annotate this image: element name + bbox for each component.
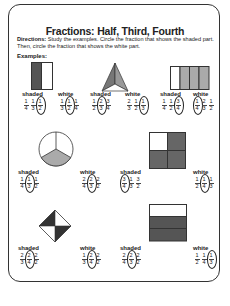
numerator: 2 bbox=[96, 177, 99, 183]
numerator: 1 bbox=[34, 177, 37, 183]
numerator: 1 bbox=[82, 253, 85, 259]
white-fraction-choices: 142312 bbox=[194, 99, 214, 112]
denominator: 4 bbox=[27, 260, 30, 266]
denominator: 3 bbox=[31, 106, 34, 112]
fraction-choice[interactable]: 13 bbox=[26, 177, 32, 190]
numerator: 1 bbox=[20, 177, 23, 183]
numerator: 2 bbox=[202, 99, 205, 105]
white-fraction-choices: 121413 bbox=[194, 253, 214, 266]
fraction-choice[interactable]: 24 bbox=[88, 253, 94, 266]
numerator: 1 bbox=[202, 177, 205, 183]
fraction-choice[interactable]: 32 bbox=[135, 177, 141, 190]
denominator: 3 bbox=[27, 184, 30, 190]
examples-label: Examples: bbox=[17, 53, 47, 59]
fraction-choice[interactable]: 23 bbox=[88, 177, 94, 190]
fraction-choice[interactable]: 13 bbox=[140, 99, 146, 112]
denominator: 3 bbox=[89, 184, 92, 190]
fraction-choice[interactable]: 13 bbox=[208, 253, 214, 266]
fraction-bar bbox=[202, 183, 207, 184]
fraction-choice[interactable]: 12 bbox=[33, 177, 39, 190]
denominator: 3 bbox=[60, 106, 63, 112]
denominator: 3 bbox=[82, 260, 85, 266]
fraction-bar bbox=[89, 183, 94, 184]
fraction-choice[interactable]: 24 bbox=[26, 253, 32, 266]
fraction-choice[interactable]: 14 bbox=[201, 177, 207, 190]
fraction-choice[interactable]: 23 bbox=[201, 99, 207, 112]
numerator: 1 bbox=[209, 253, 212, 259]
fraction-choice[interactable]: 34 bbox=[105, 99, 111, 112]
denominator: 4 bbox=[162, 106, 165, 112]
numerator: 2 bbox=[122, 253, 125, 259]
denominator: 3 bbox=[209, 184, 212, 190]
denominator: 4 bbox=[20, 184, 23, 190]
fraction-choice[interactable]: 12 bbox=[66, 99, 72, 112]
fraction-choice[interactable]: 13 bbox=[208, 177, 214, 190]
denominator: 2 bbox=[92, 106, 95, 112]
fraction-choice[interactable]: 12 bbox=[37, 99, 43, 112]
numerator: 2 bbox=[129, 253, 132, 259]
shape-rectangle-thirds-rows bbox=[149, 204, 187, 242]
numerator: 1 bbox=[169, 99, 172, 105]
shape-square-fourths bbox=[149, 132, 187, 170]
fraction-choice[interactable]: 14 bbox=[73, 99, 79, 112]
numerator: 1 bbox=[92, 99, 95, 105]
denominator: 3 bbox=[99, 106, 102, 112]
fraction-choice[interactable]: 22 bbox=[95, 177, 101, 190]
numerator: 1 bbox=[162, 99, 165, 105]
shaded-fraction-choices: 232422 bbox=[19, 253, 39, 266]
fraction-bar bbox=[141, 105, 146, 106]
denominator: 3 bbox=[127, 106, 130, 112]
shape-rectangle-halves bbox=[31, 62, 53, 90]
denominator: 4 bbox=[74, 106, 77, 112]
white-label: white bbox=[125, 91, 140, 97]
fraction-choice[interactable]: 23 bbox=[98, 99, 104, 112]
denominator: 4 bbox=[89, 260, 92, 266]
fraction-choice[interactable]: 34 bbox=[121, 177, 127, 190]
fraction-choice[interactable]: 22 bbox=[33, 253, 39, 266]
denominator: 2 bbox=[136, 184, 139, 190]
numerator: 2 bbox=[27, 253, 30, 259]
fraction-bar bbox=[209, 259, 214, 260]
numerator: 1 bbox=[195, 177, 198, 183]
shaded-fraction-choices: 242322 bbox=[121, 253, 141, 266]
fraction-choice[interactable]: 23 bbox=[126, 99, 132, 112]
fraction-choice[interactable]: 23 bbox=[128, 253, 134, 266]
white-fraction-choices: 121413 bbox=[194, 177, 214, 190]
fraction-bar bbox=[99, 105, 104, 106]
fraction-choice[interactable]: 14 bbox=[161, 99, 167, 112]
denominator: 3 bbox=[20, 260, 23, 266]
denominator: 4 bbox=[176, 106, 179, 112]
fraction-choice[interactable]: 12 bbox=[194, 253, 200, 266]
numerator: 3 bbox=[106, 99, 109, 105]
denominator: 2 bbox=[67, 106, 70, 112]
shaded-fraction-choices: 122334 bbox=[91, 99, 111, 112]
fraction-choice[interactable]: 13 bbox=[128, 177, 134, 190]
fraction-bar bbox=[176, 105, 181, 106]
numerator: 1 bbox=[202, 253, 205, 259]
shape-circle-thirds bbox=[38, 131, 74, 167]
denominator: 2 bbox=[136, 260, 139, 266]
fraction-choice[interactable]: 22 bbox=[135, 253, 141, 266]
denominator: 4 bbox=[122, 184, 125, 190]
numerator: 2 bbox=[89, 177, 92, 183]
numerator: 1 bbox=[134, 99, 137, 105]
directions: Directions: Study the examples. Circle t… bbox=[17, 36, 217, 50]
denominator: 2 bbox=[195, 260, 198, 266]
numerator: 3 bbox=[176, 99, 179, 105]
fraction-choice[interactable]: 14 bbox=[194, 99, 200, 112]
fraction-choice[interactable]: 14 bbox=[23, 99, 29, 112]
numerator: 1 bbox=[31, 99, 34, 105]
denominator: 3 bbox=[129, 184, 132, 190]
denominator: 2 bbox=[195, 184, 198, 190]
fraction-choice[interactable]: 34 bbox=[175, 99, 181, 112]
white-fraction-choices: 231213 bbox=[126, 99, 146, 112]
numerator: 2 bbox=[127, 99, 130, 105]
shaded-fraction-choices: 141312 bbox=[19, 177, 39, 190]
denominator: 2 bbox=[96, 184, 99, 190]
fraction-choice[interactable]: 22 bbox=[95, 253, 101, 266]
numerator: 1 bbox=[209, 177, 212, 183]
fraction-choice[interactable]: 12 bbox=[208, 99, 214, 112]
numerator: 3 bbox=[136, 177, 139, 183]
fraction-bar bbox=[89, 259, 94, 260]
shape-diamond-fourths bbox=[38, 209, 72, 243]
